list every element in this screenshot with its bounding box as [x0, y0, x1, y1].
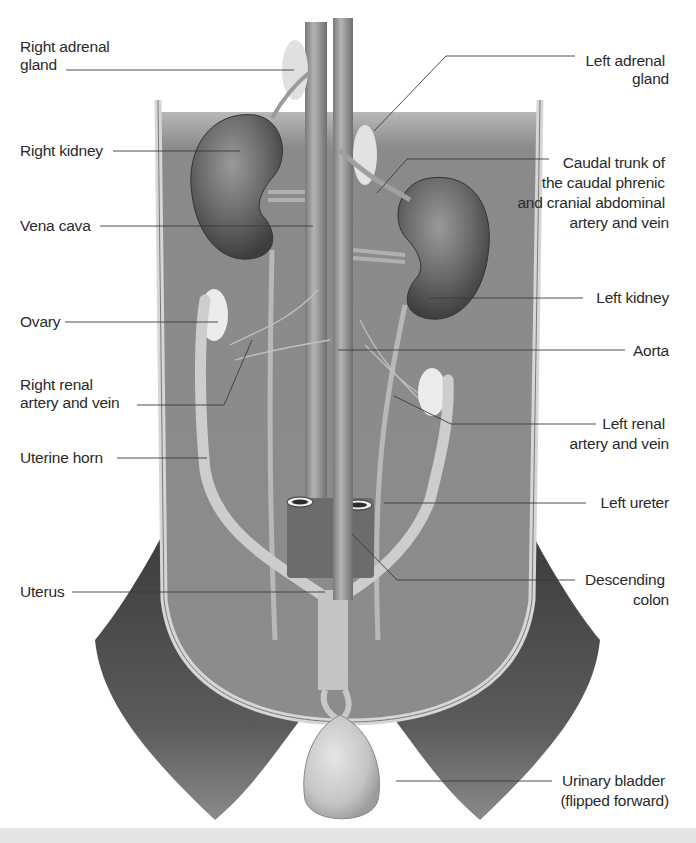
vena-cava [305, 22, 327, 512]
urinary-bladder [304, 715, 380, 819]
label-uterus: Uterus [20, 583, 65, 600]
label-ovary: Ovary [20, 313, 61, 330]
label-descending-colon: Descending colon [585, 571, 669, 608]
labels-left: Right adrenal gland Right kidney Vena ca… [20, 38, 120, 600]
caption-strip [0, 828, 696, 843]
label-left-ureter: Left ureter [601, 494, 669, 511]
label-aorta: Aorta [633, 342, 670, 359]
label-right-renal-artery-vein: Right renal artery and vein [20, 376, 120, 411]
aorta [333, 18, 353, 518]
descending-colon [287, 497, 374, 578]
anatomy-figure: Right adrenal gland Right kidney Vena ca… [0, 0, 696, 843]
label-right-kidney: Right kidney [20, 142, 103, 159]
label-vena-cava: Vena cava [20, 217, 91, 234]
label-left-kidney: Left kidney [596, 289, 669, 306]
left-ovary [418, 368, 446, 416]
label-urinary-bladder: Urinary bladder (flipped forward) [560, 772, 669, 809]
uterus [318, 590, 348, 690]
label-left-renal-artery-vein: Left renal artery and vein [569, 415, 669, 452]
label-left-adrenal-gland: Left adrenal gland [585, 52, 669, 87]
label-uterine-horn: Uterine horn [20, 449, 103, 466]
label-right-adrenal-gland: Right adrenal gland [20, 38, 114, 73]
